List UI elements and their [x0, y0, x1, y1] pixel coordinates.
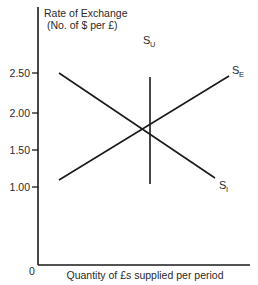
curve-s-i [59, 73, 215, 178]
label-s-u: S U [143, 34, 155, 49]
label-s-e: S E [232, 64, 244, 79]
origin-label: 0 [29, 265, 35, 277]
tick-label-1.00: 1.00 [10, 181, 31, 193]
svg-text:E: E [239, 70, 244, 79]
y-axis-sublabel: (No. of $ per £) [47, 19, 118, 31]
tick-label-2.00: 2.00 [10, 107, 31, 119]
tick-label-2.50: 2.50 [10, 67, 31, 79]
label-s-i: S I [219, 179, 228, 194]
tick-label-1.50: 1.50 [10, 144, 31, 156]
curve-s-e [59, 76, 229, 180]
y-ticks: 2.50 2.00 1.50 1.00 [10, 67, 38, 193]
svg-text:U: U [150, 40, 155, 49]
y-axis-label: Rate of Exchange [44, 7, 128, 19]
supply-curves-chart: Rate of Exchange (No. of $ per £) 2.50 2… [0, 0, 258, 285]
x-axis-label: Quantity of £s supplied per period [66, 269, 223, 281]
svg-text:I: I [226, 185, 228, 194]
